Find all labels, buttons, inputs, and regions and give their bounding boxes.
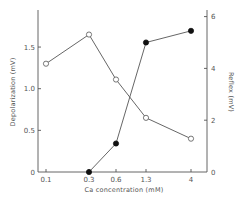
reflex-line [89, 31, 191, 172]
right-axis-tick-label: 2 [211, 117, 215, 125]
reflex-marker [188, 28, 193, 33]
chart: 00.51.01.5 0246 0.10.30.61.34 Ca concent… [0, 0, 236, 203]
reflex-marker [113, 141, 118, 146]
x-axis-tick-label: 0.1 [40, 176, 51, 184]
right-axis-tick-label: 4 [211, 65, 216, 73]
depolarization-marker [188, 136, 193, 141]
left-axis-tick-label: 0 [31, 169, 35, 177]
reflex-marker [143, 40, 148, 45]
x-axis-tick-label: 0.3 [83, 176, 94, 184]
right-axis-title: Reflex (mV) [227, 72, 235, 112]
depolarization-marker [43, 61, 48, 66]
left-axis-tick-label: 0.5 [24, 127, 35, 135]
right-axis-tick-label: 6 [211, 13, 216, 21]
reflex-marker [86, 169, 91, 174]
depolarization-marker [143, 115, 148, 120]
depolarization-line [46, 35, 191, 139]
left-axis-tick-label: 1.5 [24, 44, 35, 52]
x-axis: 0.10.30.61.34 [38, 169, 207, 184]
x-axis-tick-label: 1.3 [140, 176, 151, 184]
depolarization-marker [113, 77, 118, 82]
left-axis: 00.51.01.5 [24, 10, 41, 177]
series-group [43, 28, 193, 174]
depolarization-marker [86, 32, 91, 37]
x-axis-tick-label: 0.6 [110, 176, 122, 184]
right-axis: 0246 [204, 10, 216, 177]
x-axis-title: Ca concentration (mM) [85, 186, 164, 194]
right-axis-tick-label: 0 [211, 169, 215, 177]
x-axis-tick-label: 4 [189, 176, 194, 184]
left-axis-title: Depolarization (mV) [9, 58, 17, 127]
left-axis-tick-label: 1.0 [24, 85, 35, 93]
